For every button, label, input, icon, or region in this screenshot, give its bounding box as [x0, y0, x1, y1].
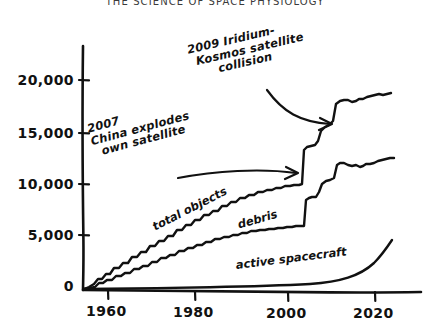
- x-tick-label-2020: 2020: [353, 305, 394, 321]
- arrow-china: [178, 171, 296, 178]
- x-axis-line: [83, 290, 421, 292]
- y-tick-label-10000: 10,000: [0, 176, 74, 192]
- y-tick-label-5000: 5,000: [0, 227, 74, 243]
- x-tick-label-1960: 1960: [86, 303, 127, 319]
- y-tick-label-15000: 15,000: [0, 125, 74, 141]
- x-tick-label-1980: 1980: [173, 304, 214, 320]
- y-axis-line: [83, 46, 84, 290]
- y-tick-label-0: 0: [0, 278, 74, 294]
- y-tick-label-20000: 20,000: [0, 72, 74, 88]
- x-tick-label-2000: 2000: [266, 305, 307, 321]
- chart-canvas: THE SCIENCE OF SPACE PHYSIOLOGY 20,000 1…: [0, 0, 430, 336]
